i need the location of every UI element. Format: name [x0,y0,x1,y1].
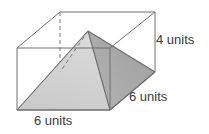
dimension-label-height: 4 units [156,33,194,47]
prism-edge-top-right-diagonal [110,12,155,48]
prism-edge-top-left-diagonal [17,12,60,48]
dimension-label-width: 6 units [34,114,72,128]
dimension-label-depth: 6 units [129,90,167,104]
geometry-figure: 4 units 6 units 6 units [0,0,209,134]
prism-pyramid-drawing [0,0,209,134]
